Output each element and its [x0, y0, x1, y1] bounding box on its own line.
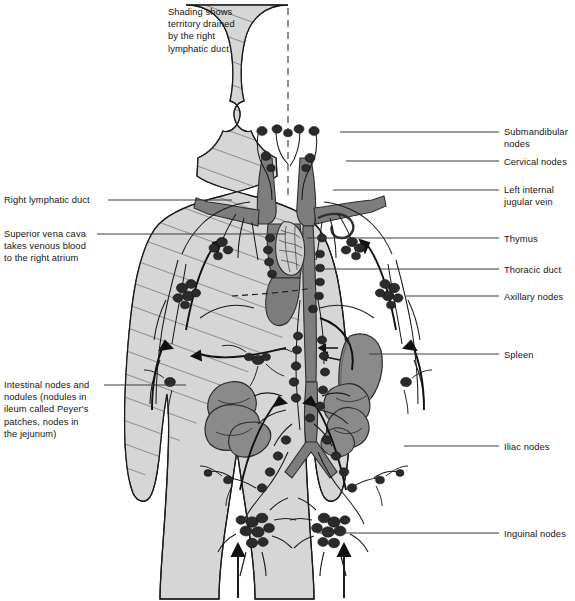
- label-submandibular-nodes: Submandibular nodes: [504, 126, 568, 150]
- label-axillary-nodes: Axillary nodes: [504, 291, 563, 303]
- node-cervical: [302, 164, 310, 171]
- node-cubital-right: [401, 377, 412, 386]
- node-submandibular: [309, 127, 319, 136]
- lymphatic-system-diagram: [0, 0, 575, 601]
- node-iliac: [273, 452, 283, 460]
- node-cervical: [261, 152, 271, 161]
- node-iliac: [265, 468, 275, 476]
- node-submandibular: [294, 125, 304, 133]
- node-submandibular: [257, 127, 267, 136]
- node-cervical: [267, 164, 275, 171]
- label-inguinal-nodes: Inguinal nodes: [504, 528, 566, 540]
- label-iliac-nodes: Iliac nodes: [504, 441, 550, 453]
- node-iliac: [339, 468, 349, 476]
- node-cervical: [305, 154, 315, 163]
- label-intestinal-nodes: Intestinal nodes and nodules (nodules in…: [4, 379, 89, 440]
- node-submandibular: [284, 129, 293, 137]
- label-thoracic-duct: Thoracic duct: [504, 264, 561, 276]
- node-submandibular: [272, 125, 282, 133]
- node-iliac: [331, 452, 341, 460]
- label-right-lymphatic-duct: Right lymphatic duct: [4, 194, 90, 206]
- label-cervical-nodes: Cervical nodes: [504, 156, 567, 168]
- cisterna-chyli: [305, 382, 318, 444]
- label-spleen: Spleen: [504, 349, 534, 361]
- node-iliac: [322, 436, 332, 444]
- shading-note: Shading shows territory drained by the r…: [168, 6, 298, 55]
- label-superior-vena-cava: Superior vena cava takes venous blood to…: [4, 228, 86, 265]
- node-cluster-axillary-right: [375, 280, 403, 309]
- label-left-internal-jugular-vein: Left internal jugular vein: [504, 184, 554, 208]
- node-iliac: [257, 484, 267, 492]
- node-iliac: [347, 484, 357, 492]
- node-iliac: [281, 436, 291, 444]
- label-thymus: Thymus: [504, 233, 538, 245]
